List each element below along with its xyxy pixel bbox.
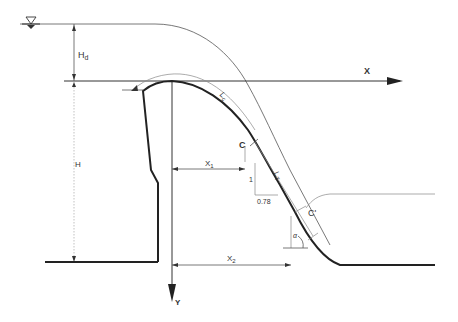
tailwater-line [306,194,435,208]
spillway-profile [143,81,435,265]
dam-height-dimension: H [72,81,81,262]
y-axis-label: Y [175,298,181,307]
x-axis: X [64,66,403,85]
design-head-label: Hd [78,50,89,61]
x1-dimension: X1 [172,159,245,171]
slope-triangle: 1 0.78 [249,163,278,205]
design-head-dimension: Hd [72,24,89,81]
water-surface-symbol-icon [22,17,40,29]
dam-height-label: H [75,160,81,169]
x2-label: X2 [227,254,236,264]
y-axis: Y [168,81,181,307]
water-surface [20,24,330,245]
spillway-diagram: X Y Hd H Lc LT C C' [0,0,458,322]
tangent-length-line: LT [250,139,318,240]
slope-rise-label: 1 [249,176,253,183]
x1-label: X1 [205,159,214,169]
slope-run-label: 0.78 [257,198,271,205]
curved-length-arc: Lc [131,74,255,130]
x-axis-label: X [364,66,370,76]
x2-dimension: X2 [172,254,291,267]
angle-alpha: α [283,216,308,248]
point-c-prime-label: C' [308,208,316,218]
angle-label: α [293,232,298,239]
